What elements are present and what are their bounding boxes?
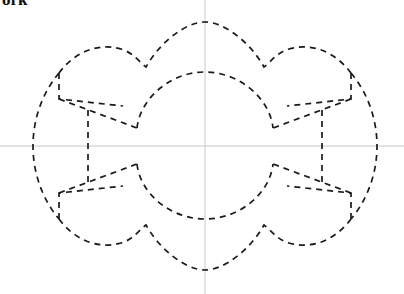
lobe-bottom-right <box>287 186 351 219</box>
lobe-top-left-inner <box>59 99 137 128</box>
technical-drawing <box>0 0 404 294</box>
lobe-bottom-left <box>59 186 123 219</box>
page-title: ork <box>2 0 28 8</box>
lobe-top-right <box>287 73 351 106</box>
centerlines-group <box>0 0 404 294</box>
lobe-bottom-right-inner <box>273 164 351 193</box>
drawing-canvas: ork <box>0 0 404 294</box>
lobe-bottom-left-inner <box>59 164 137 193</box>
lobe-top-right-inner <box>273 99 351 128</box>
lobe-top-left <box>59 73 123 106</box>
